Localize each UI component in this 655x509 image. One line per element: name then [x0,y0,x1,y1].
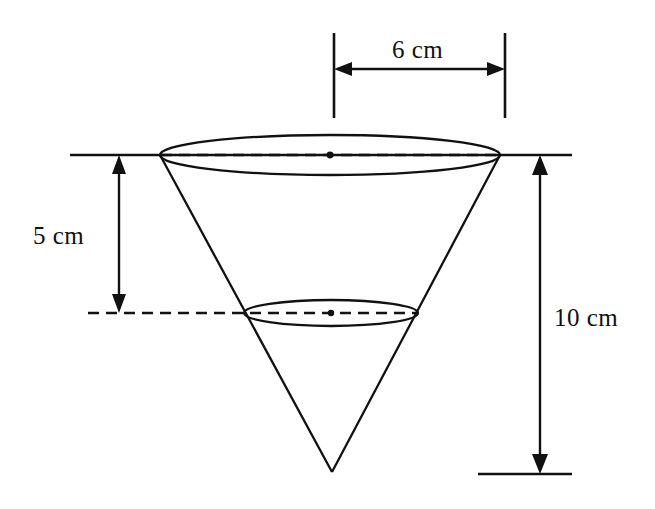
dimension-label-total-height: 10 cm [554,304,618,332]
arrowhead-up-5cm [112,155,126,174]
arrowhead-right-6cm [487,62,505,76]
arrowhead-left-6cm [334,62,352,76]
dimension-label-depth-to-level: 5 cm [33,222,84,250]
cone-diagram-svg [0,0,655,509]
cone-diagram-figure: 6 cm 5 cm 10 cm [0,0,655,509]
arrowhead-down-10cm [532,454,548,474]
arrowhead-up-10cm [532,155,548,175]
arrowhead-down-5cm [112,294,126,313]
dimension-label-top-diameter: 6 cm [392,36,443,64]
center-point-dot-top [327,152,334,159]
